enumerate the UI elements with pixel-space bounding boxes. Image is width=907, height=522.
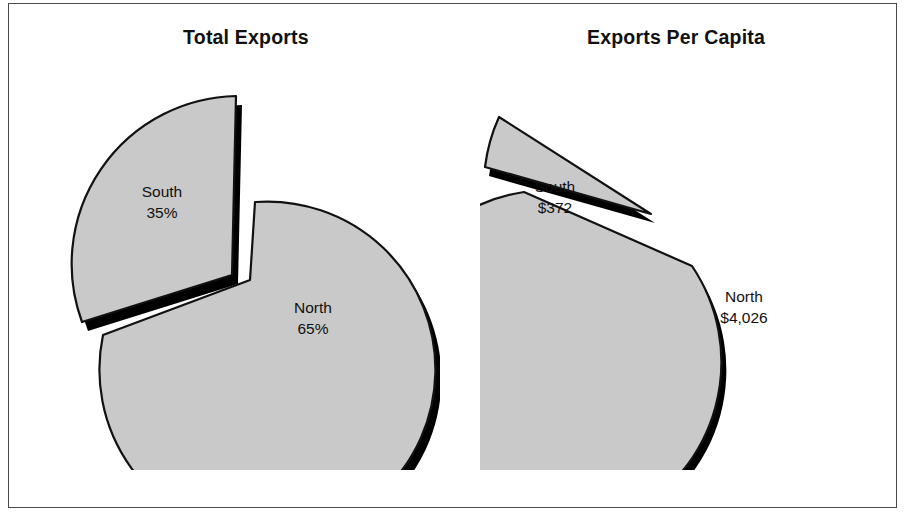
chart-title-total-exports: Total Exports — [100, 26, 392, 49]
pie-left-label-north-name: North — [294, 299, 332, 316]
chart-title-exports-per-capita: Exports Per Capita — [540, 26, 812, 49]
pie-chart-total-exports: South 35% North 65% — [40, 70, 440, 470]
pie-chart-exports-per-capita: South $372 North $4,026 — [480, 70, 900, 470]
pie-left-label-south-value: 35% — [146, 204, 177, 221]
pie-right-label-north-name: North — [725, 288, 763, 305]
pie-right-label-south-value: $372 — [538, 199, 572, 216]
pie-left-label-north-value: 65% — [297, 320, 328, 337]
pie-right-label-north-value: $4,026 — [720, 309, 767, 326]
pie-right-label-south-name: South — [535, 178, 576, 195]
pie-right-slice-north[interactable] — [480, 192, 721, 470]
figure-canvas: Total Exports Exports Per Capita South 3… — [0, 0, 907, 522]
pie-left-label-south-name: South — [142, 183, 183, 200]
